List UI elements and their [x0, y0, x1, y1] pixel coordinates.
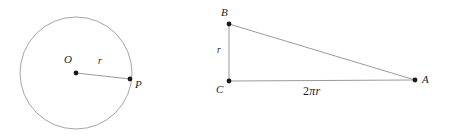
- label-circumference-2pir: 2πr: [303, 85, 320, 97]
- label-radius-r-circle: r: [98, 57, 102, 67]
- vertex-A-dot: [413, 78, 418, 83]
- label-vertex-B: B: [221, 7, 228, 18]
- triangle-side-BA: [229, 24, 415, 80]
- label-variable-r: r: [315, 84, 320, 98]
- label-point-P: P: [135, 79, 142, 90]
- vertex-C-dot: [227, 79, 232, 84]
- label-leg-r-triangle: r: [217, 46, 221, 56]
- label-vertex-A: A: [422, 74, 429, 85]
- center-point-O-dot: [74, 71, 79, 76]
- radius-segment-OP: [76, 73, 130, 79]
- figure-root: O r P B r C A 2πr: [0, 0, 450, 138]
- triangle-diagram-group: [227, 22, 418, 84]
- label-vertex-C: C: [216, 84, 224, 95]
- circle-diagram-group: [20, 17, 132, 129]
- point-P-dot: [128, 77, 133, 82]
- vertex-B-dot: [227, 22, 232, 27]
- geometry-figure-canvas: [0, 0, 450, 138]
- triangle-side-CA: [229, 80, 415, 81]
- label-center-O: O: [64, 54, 72, 65]
